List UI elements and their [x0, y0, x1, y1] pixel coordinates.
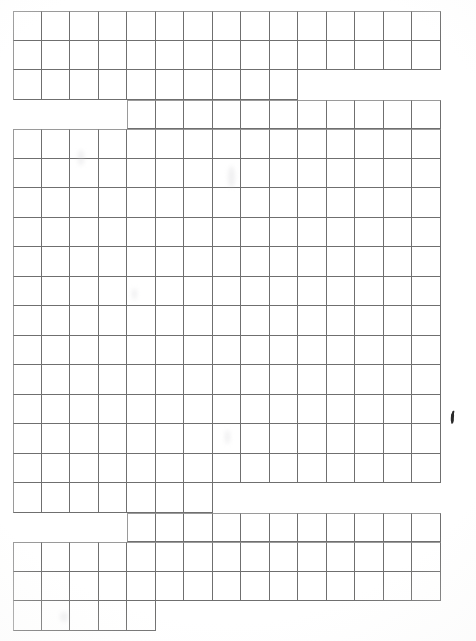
grid-cell[interactable]	[70, 277, 99, 307]
grid-cell[interactable]	[127, 218, 156, 248]
grid-cell[interactable]	[384, 513, 413, 543]
grid-cell[interactable]	[99, 336, 128, 366]
grid-cell[interactable]	[327, 365, 356, 395]
grid-cell[interactable]	[298, 277, 327, 307]
grid-cell[interactable]	[156, 100, 185, 130]
grid-cell[interactable]	[13, 41, 42, 71]
grid-cell[interactable]	[241, 336, 270, 366]
grid-cell[interactable]	[298, 188, 327, 218]
grid-cell[interactable]	[156, 129, 185, 159]
grid-cell[interactable]	[412, 11, 441, 41]
grid-cell[interactable]	[99, 70, 128, 100]
grid-cell[interactable]	[184, 395, 213, 425]
grid-cell[interactable]	[13, 159, 42, 189]
grid-cell[interactable]	[99, 365, 128, 395]
grid-cell[interactable]	[241, 542, 270, 572]
grid-cell[interactable]	[70, 395, 99, 425]
grid-cell[interactable]	[298, 159, 327, 189]
grid-cell[interactable]	[327, 424, 356, 454]
grid-cell[interactable]	[241, 159, 270, 189]
grid-cell[interactable]	[327, 454, 356, 484]
grid-cell[interactable]	[13, 129, 42, 159]
grid-cell[interactable]	[184, 218, 213, 248]
grid-cell[interactable]	[270, 218, 299, 248]
grid-cell[interactable]	[241, 41, 270, 71]
grid-cell[interactable]	[384, 41, 413, 71]
grid-cell[interactable]	[99, 306, 128, 336]
grid-cell[interactable]	[241, 454, 270, 484]
grid-cell[interactable]	[42, 218, 71, 248]
grid-cell[interactable]	[412, 306, 441, 336]
grid-cell[interactable]	[99, 218, 128, 248]
grid-cell[interactable]	[156, 483, 185, 513]
grid-cell[interactable]	[355, 129, 384, 159]
grid-cell[interactable]	[213, 277, 242, 307]
grid-cell[interactable]	[184, 159, 213, 189]
grid-cell[interactable]	[184, 365, 213, 395]
grid-cell[interactable]	[127, 542, 156, 572]
grid-cell[interactable]	[156, 395, 185, 425]
grid-cell[interactable]	[384, 159, 413, 189]
grid-cell[interactable]	[298, 247, 327, 277]
grid-cell[interactable]	[127, 365, 156, 395]
grid-cell[interactable]	[355, 395, 384, 425]
grid-cell[interactable]	[412, 424, 441, 454]
grid-cell[interactable]	[127, 572, 156, 602]
grid-cell[interactable]	[270, 188, 299, 218]
grid-cell[interactable]	[127, 483, 156, 513]
grid-cell[interactable]	[270, 100, 299, 130]
grid-cell[interactable]	[412, 365, 441, 395]
grid-cell[interactable]	[70, 159, 99, 189]
grid-cell[interactable]	[213, 513, 242, 543]
grid-cell[interactable]	[127, 100, 156, 130]
grid-cell[interactable]	[327, 188, 356, 218]
grid-cell[interactable]	[355, 11, 384, 41]
grid-cell[interactable]	[99, 601, 128, 631]
grid-cell[interactable]	[241, 188, 270, 218]
grid-cell[interactable]	[99, 454, 128, 484]
grid-cell[interactable]	[384, 542, 413, 572]
grid-cell[interactable]	[327, 277, 356, 307]
grid-cell[interactable]	[241, 395, 270, 425]
grid-cell[interactable]	[327, 100, 356, 130]
grid-cell[interactable]	[270, 11, 299, 41]
grid-cell[interactable]	[270, 542, 299, 572]
grid-cell[interactable]	[13, 306, 42, 336]
grid-cell[interactable]	[355, 454, 384, 484]
grid-cell[interactable]	[156, 454, 185, 484]
grid-cell[interactable]	[412, 129, 441, 159]
grid-cell[interactable]	[70, 601, 99, 631]
grid-cell[interactable]	[355, 424, 384, 454]
grid-cell[interactable]	[184, 424, 213, 454]
grid-cell[interactable]	[298, 129, 327, 159]
grid-cell[interactable]	[384, 395, 413, 425]
grid-cell[interactable]	[42, 454, 71, 484]
grid-cell[interactable]	[298, 424, 327, 454]
grid-cell[interactable]	[127, 159, 156, 189]
grid-cell[interactable]	[241, 247, 270, 277]
grid-cell[interactable]	[355, 336, 384, 366]
grid-cell[interactable]	[42, 277, 71, 307]
grid-cell[interactable]	[298, 11, 327, 41]
grid-cell[interactable]	[99, 572, 128, 602]
grid-cell[interactable]	[99, 159, 128, 189]
grid-cell[interactable]	[70, 542, 99, 572]
grid-cell[interactable]	[156, 218, 185, 248]
grid-cell[interactable]	[156, 277, 185, 307]
grid-cell[interactable]	[13, 70, 42, 100]
grid-cell[interactable]	[327, 11, 356, 41]
grid-cell[interactable]	[127, 395, 156, 425]
grid-cell[interactable]	[127, 247, 156, 277]
grid-cell[interactable]	[184, 513, 213, 543]
grid-cell[interactable]	[184, 277, 213, 307]
grid-cell[interactable]	[298, 306, 327, 336]
grid-cell[interactable]	[99, 424, 128, 454]
grid-cell[interactable]	[213, 41, 242, 71]
grid-cell[interactable]	[42, 188, 71, 218]
grid-cell[interactable]	[270, 395, 299, 425]
grid-cell[interactable]	[412, 247, 441, 277]
grid-cell[interactable]	[99, 11, 128, 41]
grid-cell[interactable]	[355, 188, 384, 218]
grid-cell[interactable]	[184, 336, 213, 366]
grid-cell[interactable]	[42, 424, 71, 454]
